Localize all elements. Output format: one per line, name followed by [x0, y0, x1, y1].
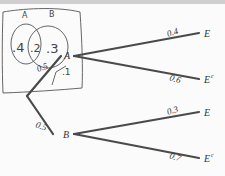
node-a: A: [63, 50, 71, 61]
svg-text:E: E: [203, 74, 210, 85]
svg-text:c: c: [211, 152, 214, 158]
svg-text:E: E: [203, 153, 210, 164]
branch-b-e: [74, 112, 199, 134]
prob-a-ec: 0.6: [168, 72, 182, 85]
prob-root-b: 0.5: [34, 119, 48, 132]
venn-only-b: .3: [46, 41, 58, 56]
outcome-a-e: E: [203, 28, 210, 39]
diagram-canvas: A B .4 .2 .3 .1 0.5 0.5 0.4 0.6 0.3 0.7 …: [0, 0, 225, 176]
outcome-b-e: E: [203, 107, 210, 118]
outcome-a-ec: E c: [203, 73, 214, 85]
venn-label-b: B: [49, 10, 55, 19]
node-b: B: [63, 129, 69, 140]
probability-tree-diagram: A B .4 .2 .3 .1 0.5 0.5 0.4 0.6 0.3 0.7 …: [0, 0, 225, 176]
venn-both: .2: [30, 42, 41, 55]
prob-b-ec: 0.7: [168, 150, 182, 163]
branch-a-e: [74, 33, 199, 56]
venn-only-a: .4: [12, 40, 24, 55]
svg-text:c: c: [211, 73, 214, 79]
outcome-b-ec: E c: [203, 152, 214, 164]
venn-label-a: A: [22, 11, 28, 20]
venn-neither: .1: [62, 67, 71, 77]
